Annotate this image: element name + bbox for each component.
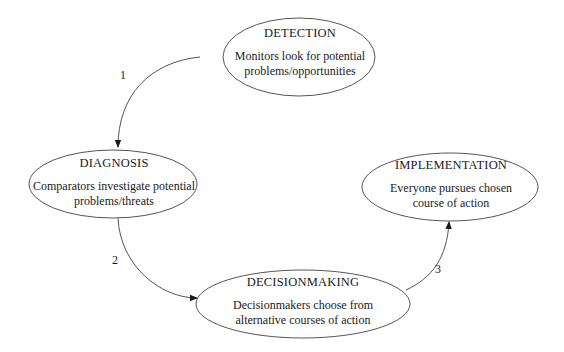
diagnosis-title: DIAGNOSIS: [28, 156, 200, 171]
detection-node: DETECTION Monitors look for potential pr…: [224, 26, 376, 79]
implementation-title: IMPLEMENTATION: [370, 158, 532, 173]
decisionmaking-description-line1: Decisionmakers choose from: [210, 298, 396, 313]
diagnosis-description-line1: Comparators investigate potential: [28, 179, 200, 194]
diagnosis-description-line2: problems/threats: [28, 194, 200, 209]
decisionmaking-description-line2: alternative courses of action: [210, 313, 396, 328]
edge-1-arrow: [118, 57, 200, 147]
decisionmaking-title: DECISIONMAKING: [210, 275, 396, 290]
detection-description-line1: Monitors look for potential: [224, 49, 376, 64]
detection-title: DETECTION: [224, 26, 376, 41]
edge-3-label: 3: [435, 262, 441, 277]
edge-1-label: 1: [120, 68, 126, 83]
implementation-node: IMPLEMENTATION Everyone pursues chosen c…: [370, 158, 532, 211]
diagnosis-node: DIAGNOSIS Comparators investigate potent…: [28, 156, 200, 209]
edge-2-label: 2: [112, 253, 118, 268]
implementation-description-line1: Everyone pursues chosen: [370, 181, 532, 196]
edge-2-arrow: [118, 218, 197, 298]
implementation-description-line2: course of action: [370, 196, 532, 211]
detection-description-line2: problems/opportunities: [224, 64, 376, 79]
decisionmaking-node: DECISIONMAKING Decisionmakers choose fro…: [210, 275, 396, 328]
edge-3-arrow: [406, 222, 449, 290]
